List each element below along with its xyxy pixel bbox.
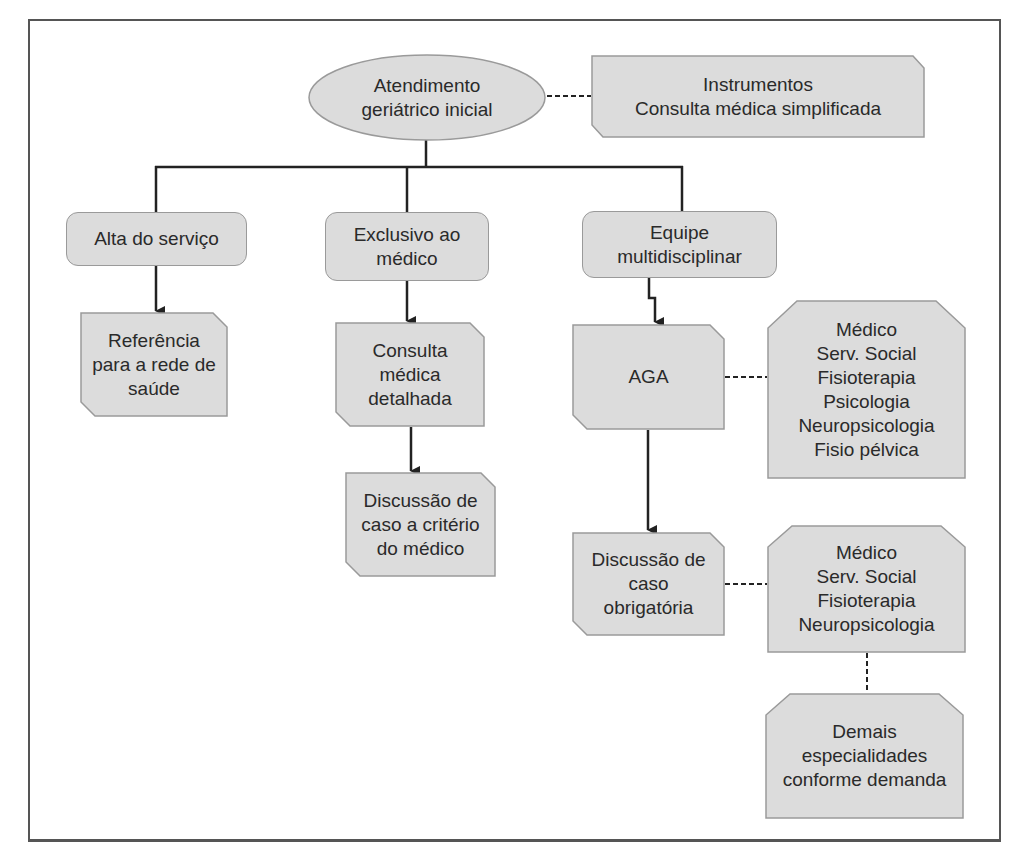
node-other-specialties: Demais especialidades conforme demanda: [765, 693, 964, 819]
node-label: Médico Serv. Social Fisioterapia Neurops…: [798, 541, 934, 637]
node-label: Discussão de caso a critério do médico: [361, 489, 479, 561]
node-label: Demais especialidades conforme demanda: [783, 720, 947, 792]
node-doctor-only: Exclusivo ao médico: [325, 212, 489, 281]
node-case-discussion-mandatory: Discussão de caso obrigatória: [572, 532, 725, 636]
node-label: Discussão de caso obrigatória: [591, 548, 705, 620]
node-aga-team: Médico Serv. Social Fisioterapia Psicolo…: [767, 300, 966, 479]
node-label: Atendimento geriátrico inicial: [362, 74, 493, 122]
node-label: Equipe multidisciplinar: [617, 221, 742, 269]
node-multidisciplinary-team: Equipe multidisciplinar: [582, 211, 777, 278]
node-discharge: Alta do serviço: [66, 212, 247, 266]
node-label: AGA: [628, 365, 668, 389]
node-referral: Referência para a rede de saúde: [80, 312, 228, 417]
node-label: Médico Serv. Social Fisioterapia Psicolo…: [798, 318, 934, 462]
node-label: Exclusivo ao médico: [354, 223, 461, 271]
node-label: Alta do serviço: [94, 227, 219, 251]
node-label: Instrumentos Consulta médica simplificad…: [635, 73, 881, 121]
node-label: Consulta médica detalhada: [368, 339, 451, 411]
node-discussion-team: Médico Serv. Social Fisioterapia Neurops…: [767, 525, 966, 653]
node-case-discussion-optional: Discussão de caso a critério do médico: [345, 472, 496, 577]
node-label: Referência para a rede de saúde: [92, 329, 216, 401]
node-initial-geriatric-care: Atendimento geriátrico inicial: [308, 54, 546, 141]
node-instruments: Instrumentos Consulta médica simplificad…: [591, 55, 925, 138]
node-aga: AGA: [572, 324, 725, 430]
node-detailed-consult: Consulta médica detalhada: [335, 322, 485, 427]
